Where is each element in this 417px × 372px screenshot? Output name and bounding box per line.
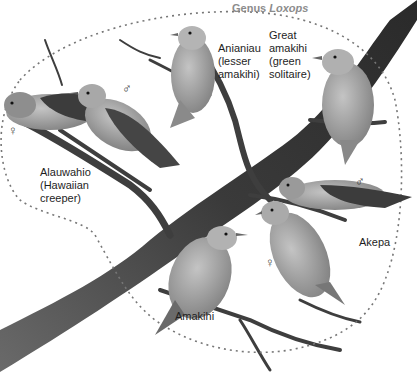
genus-label: Genus Loxops bbox=[232, 2, 308, 14]
female-symbol-alauwahio: ♀ bbox=[8, 124, 18, 137]
label-great-amakihi: Great amakihi (green solitaire) bbox=[269, 29, 311, 81]
bird-akepa-male bbox=[279, 177, 412, 210]
genus-prefix: Genus bbox=[232, 2, 266, 14]
male-symbol-akepa: ♂ bbox=[355, 175, 365, 188]
label-alauwahio: Alauwahio (Hawaiian creeper) bbox=[40, 166, 91, 205]
bird-anianiau bbox=[170, 26, 215, 128]
female-symbol-akepa: ♀ bbox=[265, 256, 275, 269]
male-symbol-alauwahio: ♂ bbox=[122, 82, 132, 95]
label-amakihi: Amakihi bbox=[175, 310, 214, 323]
genus-name: Loxops bbox=[269, 2, 308, 14]
loxops-illustration: Genus Loxops Alauwahio (Hawaiian creeper… bbox=[0, 0, 417, 372]
label-anianiau: Anianiau (lesser amakihi) bbox=[218, 42, 261, 81]
label-akepa: Akepa bbox=[359, 236, 390, 249]
